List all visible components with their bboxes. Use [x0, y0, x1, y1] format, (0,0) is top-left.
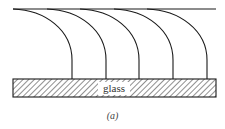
arc-2 — [47, 9, 106, 79]
arc-5 — [147, 9, 207, 79]
arc-4 — [114, 9, 173, 79]
arc-3 — [80, 9, 139, 79]
field-arcs — [13, 9, 207, 79]
figure-caption: (a) — [0, 110, 225, 121]
arc-1 — [13, 9, 72, 79]
glass-label: glass — [98, 82, 130, 95]
